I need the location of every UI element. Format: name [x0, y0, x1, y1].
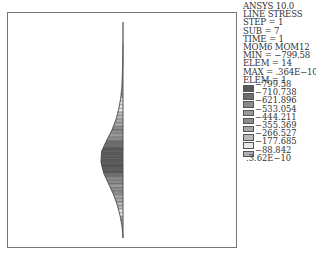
stress-band — [102, 166, 123, 170]
stress-band — [101, 152, 123, 156]
contour-legend: −799.58 −710.738 −621.896 −533.054 −444.… — [242, 84, 316, 166]
stress-band — [103, 144, 123, 148]
legend-swatch — [243, 85, 254, 92]
legend-row: .3.62E−10 — [242, 158, 316, 166]
legend-swatch — [243, 126, 254, 133]
stress-band — [105, 141, 123, 145]
stress-band — [110, 188, 123, 192]
legend-swatch — [243, 101, 254, 108]
legend-swatch — [243, 142, 254, 149]
stress-band — [101, 162, 123, 166]
stress-band — [112, 126, 123, 130]
stress-band — [108, 134, 123, 138]
stress-band — [104, 173, 123, 177]
stress-band — [105, 177, 123, 181]
stress-band — [106, 137, 123, 141]
stress-band — [107, 180, 123, 184]
stress-band — [103, 170, 123, 174]
legend-swatch — [243, 110, 254, 117]
legend-swatch — [243, 134, 254, 141]
legend-swatch — [243, 93, 254, 100]
stress-band — [109, 184, 123, 188]
info-panel: ANSYS 10.0 LINE STRESS STEP = 1 SUB = 7 … — [243, 2, 316, 84]
stress-band — [101, 159, 123, 163]
legend-swatch — [243, 118, 254, 125]
stress-band — [102, 148, 123, 152]
legend-label: .3.62E−10 — [246, 154, 291, 162]
stress-band — [101, 155, 123, 159]
